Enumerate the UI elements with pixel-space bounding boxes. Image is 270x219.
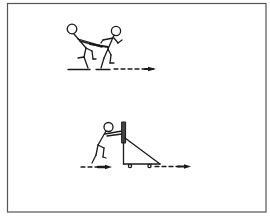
sled-post: [122, 122, 126, 143]
panel-resisted-sprint: [67, 24, 156, 71]
harness-strap: [90, 44, 108, 47]
sled-wheel-rear: [128, 164, 131, 167]
direction-arrow-left: [81, 165, 112, 169]
stick-figure-pusher: [92, 123, 122, 164]
frame-border: [8, 4, 267, 213]
direction-arrow-right: [155, 164, 191, 168]
panel-sled-push: [81, 122, 191, 169]
diagram-canvas: [0, 0, 270, 219]
diagram-svg: [0, 0, 270, 219]
sled-frame: [124, 138, 161, 164]
direction-arrow: [114, 67, 156, 71]
sled-wheel-front: [148, 164, 151, 167]
